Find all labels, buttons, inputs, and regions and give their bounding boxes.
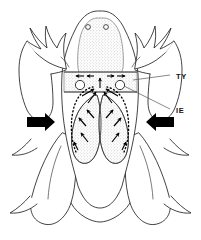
- head-torso-stipple: [78, 18, 124, 78]
- tympanum-right-icon: [115, 80, 124, 89]
- label-ty: TY: [176, 72, 187, 81]
- nostril-right-icon: [104, 25, 109, 30]
- nostril-left-icon: [86, 25, 91, 30]
- tympanum-left-icon: [75, 80, 84, 89]
- frog-anatomy-diagram: TY IE: [0, 0, 201, 240]
- figure-root: TY IE: [0, 0, 201, 240]
- label-ie: IE: [176, 106, 184, 115]
